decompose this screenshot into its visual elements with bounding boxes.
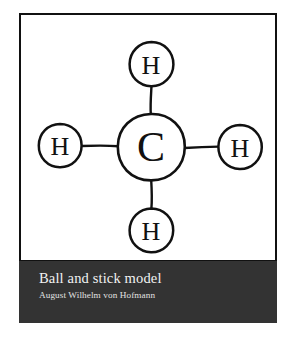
bond-c-h-left	[82, 146, 119, 147]
bond-c-h-bottom	[151, 180, 152, 209]
caption-title: Ball and stick model	[39, 270, 162, 286]
hydrogen-right-symbol-label: H	[231, 134, 250, 163]
bond-c-h-top	[151, 86, 152, 114]
atom-hydrogen-top: H	[130, 42, 174, 86]
figure-frame: C H H H H	[19, 13, 277, 262]
illustration-card: C H H H H Ball and s	[19, 13, 277, 323]
hydrogen-bottom-symbol-label: H	[142, 217, 161, 246]
atom-hydrogen-bottom: H	[130, 208, 174, 252]
methane-molecule-diagram: C H H H H	[21, 15, 275, 260]
caption-bar: Ball and stick model August Wilhelm von …	[19, 261, 277, 323]
atom-hydrogen-right: H	[218, 125, 261, 169]
atom-carbon-center: C	[118, 114, 185, 180]
hydrogen-top-symbol-label: H	[142, 51, 161, 80]
caption-subtitle: August Wilhelm von Hofmann	[39, 290, 155, 301]
hydrogen-left-symbol-label: H	[51, 132, 70, 161]
carbon-symbol-label: C	[137, 124, 165, 170]
bond-c-h-right	[185, 147, 219, 148]
atom-hydrogen-left: H	[39, 124, 82, 167]
